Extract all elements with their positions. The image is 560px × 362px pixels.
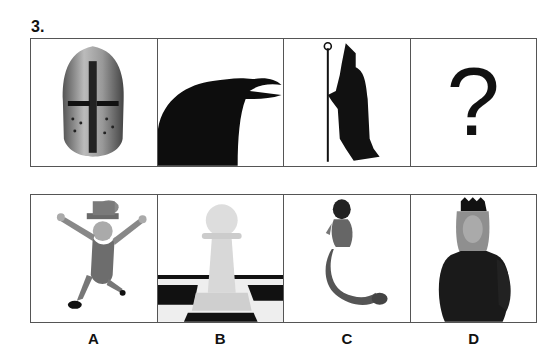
leprechaun-icon (31, 195, 157, 322)
question-mark: ? (411, 47, 537, 157)
mermaid-icon (284, 195, 410, 322)
helmet-icon (31, 39, 157, 166)
option-label-d[interactable]: D (410, 330, 537, 347)
option-label-b[interactable]: B (157, 330, 284, 347)
option-label-a[interactable]: A (30, 330, 157, 347)
option-a[interactable] (31, 195, 158, 322)
option-labels: A B C D (30, 330, 537, 347)
sequence-cell-raven (158, 39, 285, 166)
option-label-c[interactable]: C (284, 330, 411, 347)
bishop-icon (284, 39, 410, 166)
sequence-row: ? (30, 38, 537, 167)
raven-icon (158, 39, 284, 166)
sequence-cell-unknown: ? (411, 39, 537, 166)
option-c[interactable] (284, 195, 411, 322)
sequence-cell-helmet (31, 39, 158, 166)
options-row (30, 194, 537, 323)
pawn-icon (158, 195, 284, 322)
option-d[interactable] (411, 195, 537, 322)
queen-icon (411, 195, 537, 322)
option-b[interactable] (158, 195, 285, 322)
question-number: 3. (31, 18, 44, 36)
sequence-cell-bishop (284, 39, 411, 166)
